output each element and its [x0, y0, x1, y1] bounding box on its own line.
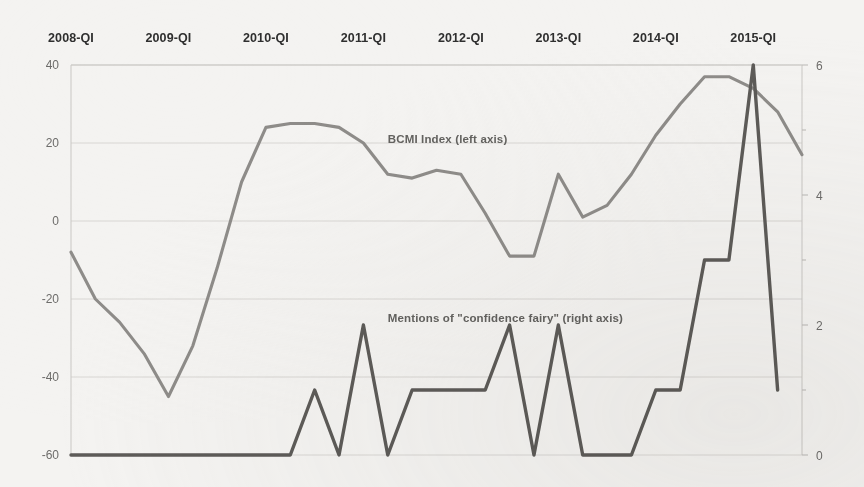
left-axis-tick-label: -20	[42, 292, 60, 306]
x-axis-tick-label: 2015-QI	[730, 31, 776, 45]
left-axis-tick-label: 40	[46, 58, 60, 72]
left-axis-tick-label: 20	[46, 136, 60, 150]
x-axis-tick-label: 2008-QI	[48, 31, 94, 45]
gridlines-group	[71, 65, 802, 455]
x-axis-tick-label: 2013-QI	[535, 31, 581, 45]
left-axis-tick-label: -60	[42, 448, 60, 462]
x-axis-tick-label: 2010-QI	[243, 31, 289, 45]
left-axis-tick-label: 0	[52, 214, 59, 228]
axes-group	[71, 65, 808, 455]
series-annotations-group: BCMI Index (left axis)Mentions of "confi…	[388, 133, 623, 324]
right-axis-tick-label: 6	[816, 59, 823, 73]
series-lines-group	[71, 65, 802, 455]
series-line-mentions	[71, 65, 778, 455]
left-axis-tick-labels: 40200-20-40-60	[42, 58, 60, 462]
right-axis-tick-label: 0	[816, 449, 823, 463]
x-axis-tick-label: 2009-QI	[146, 31, 192, 45]
x-axis-tick-labels: 2008-QI2009-QI2010-QI2011-QI2012-QI2013-…	[48, 31, 776, 45]
chart-screenshot: 2008-QI2009-QI2010-QI2011-QI2012-QI2013-…	[0, 0, 864, 487]
right-axis-tick-label: 2	[816, 319, 823, 333]
series-line-bcmi	[71, 77, 802, 397]
right-axis-tick-labels: 6420	[816, 59, 823, 463]
series-annotation: BCMI Index (left axis)	[388, 133, 508, 145]
x-axis-tick-label: 2014-QI	[633, 31, 679, 45]
dual-axis-line-chart: 2008-QI2009-QI2010-QI2011-QI2012-QI2013-…	[0, 0, 864, 487]
x-axis-tick-label: 2011-QI	[341, 31, 386, 45]
x-axis-tick-label: 2012-QI	[438, 31, 484, 45]
left-axis-tick-label: -40	[42, 370, 60, 384]
series-annotation: Mentions of "confidence fairy" (right ax…	[388, 312, 623, 324]
right-axis-tick-label: 4	[816, 189, 823, 203]
